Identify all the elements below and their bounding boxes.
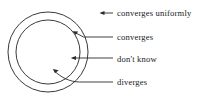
label-dont-know: don't know (117, 55, 157, 64)
label-diverges: diverges (117, 78, 147, 87)
outer-circle (8, 12, 88, 92)
label-converges-uniformly: converges uniformly (117, 9, 191, 18)
label-converges: converges (117, 33, 153, 42)
arrowhead-converges-uniformly (100, 11, 105, 15)
inner-circle (16, 20, 80, 84)
leader-dont-know (71, 56, 113, 60)
convergence-regions-figure: converges uniformly converges don't know… (0, 0, 214, 99)
leader-converges (73, 31, 113, 37)
arrowhead-dont-know (71, 56, 76, 60)
leader-converges-uniformly (100, 11, 114, 15)
arrowhead-diverges (53, 69, 59, 73)
leader-line-converges (74, 32, 113, 37)
